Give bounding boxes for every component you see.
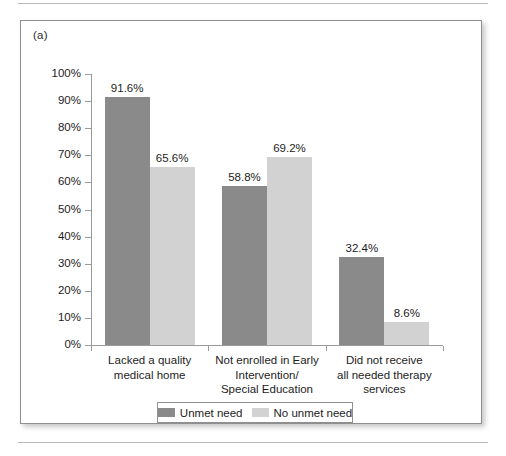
y-axis-tick-label: 40%	[35, 230, 81, 242]
x-axis-separator-tick	[326, 346, 327, 351]
y-axis-tick	[85, 74, 91, 75]
y-axis-tick	[85, 210, 91, 211]
category-label-line: Special Education	[201, 382, 332, 397]
chart-legend: Unmet need No unmet need	[157, 402, 353, 423]
bar-no-unmet-need	[384, 322, 429, 345]
category-label-line: medical home	[84, 368, 215, 383]
bar-no-unmet-need	[150, 167, 195, 345]
category-label-line: Lacked a quality	[84, 353, 215, 368]
y-axis-tick-label: 70%	[35, 148, 81, 160]
y-axis-tick	[85, 318, 91, 319]
y-axis-tick	[85, 128, 91, 129]
figure-container: (a) 0%10%20%30%40%50%60%70%80%90%100% 91…	[20, 20, 482, 424]
legend-entry-unmet-need: Unmet need	[158, 407, 243, 419]
category-label-line: services	[319, 382, 450, 397]
y-axis-tick-label: 60%	[35, 175, 81, 187]
legend-swatch-icon-unmet-need	[158, 408, 175, 417]
y-axis-tick	[85, 101, 91, 102]
x-axis-separator-tick	[443, 346, 444, 351]
bar-value-label: 65.6%	[142, 152, 203, 164]
bar-unmet-need	[339, 257, 384, 345]
y-axis-tick-label: 20%	[35, 284, 81, 296]
legend-label-unmet-need: Unmet need	[180, 407, 243, 419]
x-axis-separator-tick	[208, 346, 209, 351]
category-label-line: Did not receive	[319, 353, 450, 368]
y-axis-tick-label: 50%	[35, 203, 81, 215]
x-axis-separator-tick	[91, 346, 92, 351]
legend-swatch-icon-no-unmet-need	[252, 408, 269, 417]
bar-value-label: 32.4%	[331, 242, 392, 254]
bar-unmet-need	[222, 186, 267, 345]
y-axis-tick	[85, 264, 91, 265]
y-axis-tick	[85, 182, 91, 183]
category-label: Lacked a qualitymedical home	[84, 353, 215, 382]
y-axis-tick-label: 80%	[35, 121, 81, 133]
y-axis-tick	[85, 237, 91, 238]
bar-chart-plot-area: 0%10%20%30%40%50%60%70%80%90%100% 91.6%6…	[21, 21, 483, 425]
bar-unmet-need	[105, 97, 150, 345]
y-axis-tick-label: 10%	[35, 311, 81, 323]
bar-value-label: 91.6%	[97, 82, 158, 94]
category-label-line: Not enrolled in Early	[201, 353, 332, 368]
bar-no-unmet-need	[267, 157, 312, 345]
bar-value-label: 69.2%	[259, 142, 320, 154]
y-axis-tick	[85, 291, 91, 292]
category-label: Not enrolled in EarlyIntervention/Specia…	[201, 353, 332, 397]
legend-entry-no-unmet-need: No unmet need	[252, 407, 353, 419]
y-axis-tick-label: 90%	[35, 94, 81, 106]
page-rule-bottom	[18, 442, 488, 443]
category-label: Did not receiveall needed therapyservice…	[319, 353, 450, 397]
y-axis-tick	[85, 155, 91, 156]
legend-label-no-unmet-need: No unmet need	[274, 407, 353, 419]
bar-value-label: 8.6%	[376, 307, 437, 319]
y-axis-tick-label: 100%	[35, 67, 81, 79]
y-axis-line	[91, 74, 92, 346]
y-axis-tick-label: 0%	[35, 338, 81, 350]
bar-value-label: 58.8%	[214, 171, 275, 183]
page-rule-top	[18, 3, 488, 4]
y-axis-tick-label: 30%	[35, 257, 81, 269]
category-label-line: all needed therapy	[319, 368, 450, 383]
x-axis-line	[91, 345, 443, 346]
category-label-line: Intervention/	[201, 368, 332, 383]
